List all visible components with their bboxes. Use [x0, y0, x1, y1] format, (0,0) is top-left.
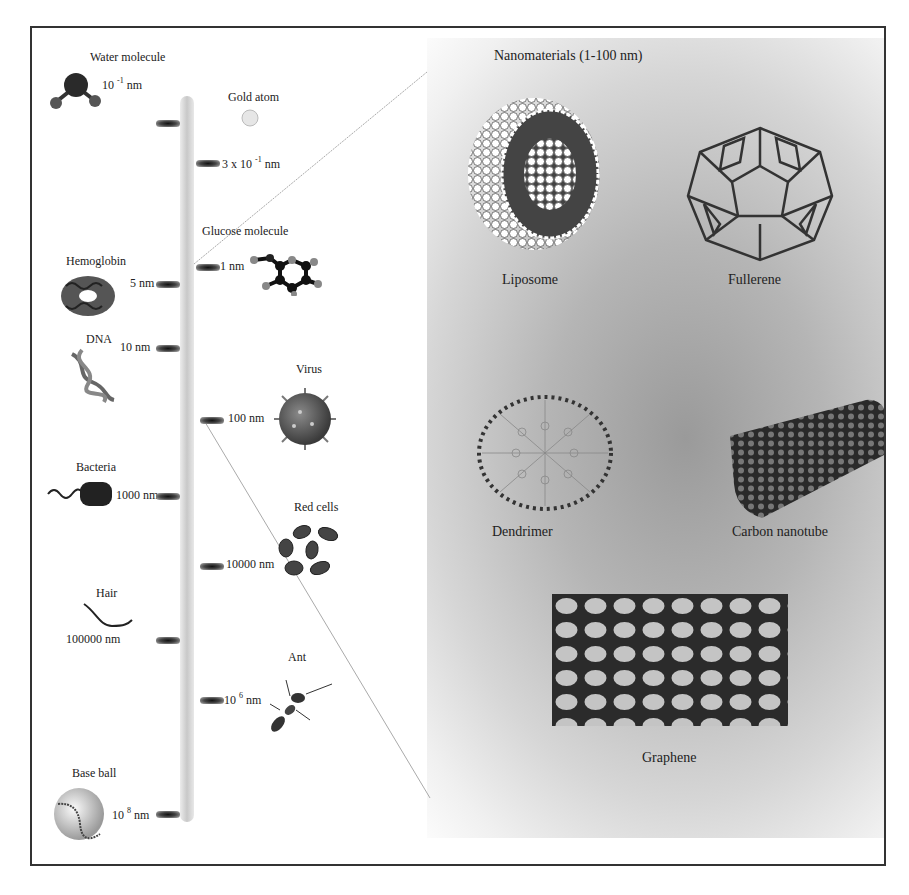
graphene-label: Graphene: [642, 750, 696, 766]
red-cells-size: 10000 nm: [226, 557, 274, 572]
tick-glucose: [196, 264, 220, 271]
dendrimer-icon: [472, 390, 618, 516]
tick-bacteria: [156, 493, 180, 500]
tick-virus: [200, 417, 224, 424]
hair-label: Hair: [96, 586, 117, 601]
ant-label: Ant: [288, 650, 306, 665]
dna-icon: [68, 348, 118, 404]
tick-hemoglobin: [156, 281, 180, 288]
gold-atom-icon: [240, 108, 260, 128]
tick-water: [156, 120, 180, 127]
hair-size: 100000 nm: [66, 632, 120, 647]
hemoglobin-size: 5 nm: [130, 276, 154, 291]
baseball-icon: [52, 786, 106, 842]
panel-title: Nanomaterials (1-100 nm): [494, 48, 643, 64]
carbon-nanotube-icon: [726, 394, 886, 518]
tick-dna: [156, 345, 180, 352]
virus-size: 100 nm: [228, 411, 264, 426]
gold-atom-size: 3 x 10 -1 nm: [222, 155, 280, 172]
dna-size: 10 nm: [120, 340, 150, 355]
liposome-label: Liposome: [502, 272, 558, 288]
tick-red-cells: [200, 563, 224, 570]
bacteria-size: 1000 nm: [116, 488, 158, 503]
hair-icon: [82, 602, 134, 632]
virus-label: Virus: [296, 362, 322, 377]
dendrimer-label: Dendrimer: [492, 524, 553, 540]
scale-bar: [180, 96, 194, 822]
dna-label: DNA: [86, 332, 112, 347]
fullerene-label: Fullerene: [728, 272, 781, 288]
bacteria-label: Bacteria: [76, 460, 116, 475]
red-cells-icon: [276, 522, 342, 578]
tick-baseball: [156, 811, 180, 818]
gold-atom-label: Gold atom: [228, 90, 279, 105]
carbon-nanotube-label: Carbon nanotube: [732, 524, 828, 540]
virus-icon: [270, 384, 340, 454]
glucose-label: Glucose molecule: [202, 224, 288, 239]
water-molecule-size: 10 -1 nm: [102, 76, 142, 93]
baseball-size: 10 8 nm: [112, 806, 149, 823]
water-molecule-icon: [46, 72, 106, 112]
baseball-label: Base ball: [72, 766, 116, 781]
fullerene-icon: [684, 124, 836, 264]
hemoglobin-icon: [58, 272, 118, 320]
glucose-molecule-icon: [248, 250, 322, 296]
liposome-icon: [464, 94, 604, 254]
ant-icon: [266, 676, 336, 736]
red-cells-label: Red cells: [294, 500, 338, 515]
glucose-size: 1 nm: [220, 259, 244, 274]
hemoglobin-label: Hemoglobin: [66, 254, 126, 269]
tick-hair: [156, 637, 180, 644]
tick-gold-atom: [196, 160, 220, 167]
water-molecule-label: Water molecule: [90, 50, 165, 65]
ant-size: 10 6 nm: [224, 691, 261, 708]
graphene-icon: [552, 594, 788, 726]
bacteria-icon: [46, 480, 116, 510]
tick-ant: [200, 697, 224, 704]
figure-frame: Nanomaterials (1-100 nm) Water molecule …: [30, 26, 886, 866]
